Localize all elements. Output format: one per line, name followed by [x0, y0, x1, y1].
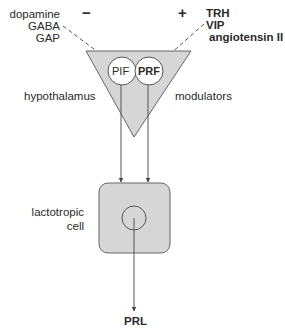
plus-sign: +	[178, 4, 187, 21]
stimulator-angiotensin: angiotensin II	[209, 31, 283, 43]
inhibitor-dopamine: dopamine	[0, 8, 60, 20]
modulators-label: modulators	[175, 90, 232, 102]
inhibitor-list: dopamine GABA GAP	[0, 8, 60, 44]
inhibitor-gaba: GABA	[0, 20, 60, 32]
cell-label-line2: cell	[20, 219, 84, 233]
pif-label: PIF	[112, 65, 129, 77]
stimulator-list: TRH VIP angiotensin II	[206, 7, 283, 43]
prl-label: PRL	[124, 315, 147, 327]
inhibitor-gap: GAP	[0, 32, 60, 44]
diagram-canvas	[0, 0, 285, 336]
stimulator-trh: TRH	[206, 7, 283, 19]
cell-label: lactotropic cell	[20, 205, 84, 233]
minus-sign: −	[82, 4, 91, 21]
prf-label: PRF	[138, 65, 160, 77]
cell-label-line1: lactotropic	[20, 205, 84, 219]
hypothalamus-label: hypothalamus	[24, 90, 96, 102]
stimulator-vip: VIP	[206, 19, 283, 31]
